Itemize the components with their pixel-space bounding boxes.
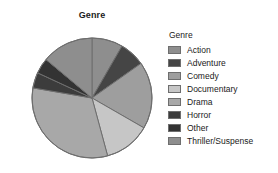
legend-swatch-icon xyxy=(168,59,181,67)
legend-items: ActionAdventureComedyDocumentaryDramaHor… xyxy=(168,43,278,147)
legend-item[interactable]: Other xyxy=(168,121,278,134)
legend-item[interactable]: Action xyxy=(168,43,278,56)
legend-swatch-icon xyxy=(168,137,181,145)
legend-item-label: Comedy xyxy=(187,71,219,81)
legend-item[interactable]: Comedy xyxy=(168,69,278,82)
legend-item[interactable]: Thriller/Suspense xyxy=(168,134,278,147)
pie-chart-figure: Genre Genre ActionAdventureComedyDocumen… xyxy=(0,0,278,173)
legend-swatch-icon xyxy=(168,46,181,54)
legend-item-label: Action xyxy=(187,45,211,55)
legend-item-label: Thriller/Suspense xyxy=(187,136,253,146)
legend-item[interactable]: Drama xyxy=(168,95,278,108)
pie-svg xyxy=(26,32,158,164)
pie-slice-group xyxy=(32,38,152,158)
legend-swatch-icon xyxy=(168,72,181,80)
legend-swatch-icon xyxy=(168,85,181,93)
legend-item-label: Adventure xyxy=(187,58,226,68)
legend-title: Genre xyxy=(169,30,278,40)
legend-item-label: Drama xyxy=(187,97,213,107)
legend-item-label: Other xyxy=(187,123,208,133)
legend-item[interactable]: Adventure xyxy=(168,56,278,69)
legend-item[interactable]: Horror xyxy=(168,108,278,121)
legend-item-label: Documentary xyxy=(187,84,238,94)
legend-swatch-icon xyxy=(168,111,181,119)
legend-item[interactable]: Documentary xyxy=(168,82,278,95)
legend-swatch-icon xyxy=(168,98,181,106)
page-title: Genre xyxy=(0,10,184,20)
pie-plot-area xyxy=(26,32,158,164)
legend-swatch-icon xyxy=(168,124,181,132)
legend-item-label: Horror xyxy=(187,110,211,120)
legend: Genre ActionAdventureComedyDocumentaryDr… xyxy=(168,30,278,147)
